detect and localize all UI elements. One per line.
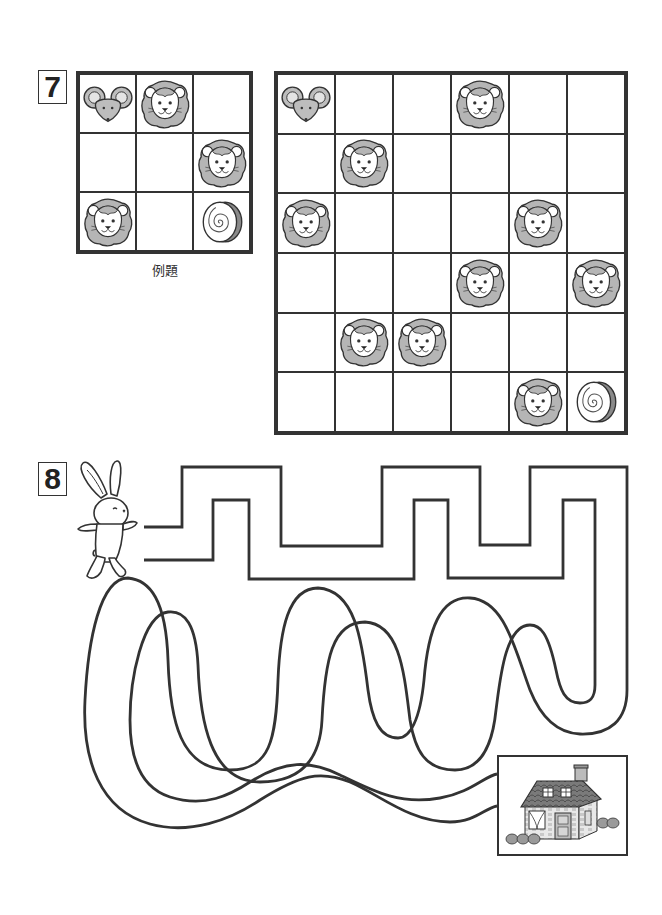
house-icon — [499, 757, 626, 854]
house-goal-box — [497, 755, 628, 856]
